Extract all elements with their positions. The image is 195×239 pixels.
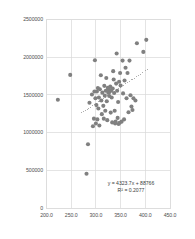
y-axis-tick-label: 1500000 (23, 92, 43, 98)
y-axis-tick-label: 500000 (26, 167, 43, 173)
y-axis-tick-label: 0 (40, 205, 43, 211)
r-squared-value: R² = 0.2077 (101, 187, 161, 194)
x-axis-tick-label: 450.0 (155, 212, 185, 218)
y-axis-tick-label: 2500000 (23, 16, 43, 22)
data-points (56, 38, 149, 176)
regression-annotation: y = 4323.7x + 88766 R² = 0.2077 (101, 180, 161, 195)
plot-canvas (0, 0, 195, 239)
regression-equation: y = 4323.7x + 88766 (101, 180, 161, 187)
y-axis-tick-label: 2000000 (23, 54, 43, 60)
scatter-chart: 05000001000000150000020000002500000 200.… (0, 0, 195, 239)
y-axis-tick-label: 1000000 (23, 129, 43, 135)
r-squared-text: R² = 0.2077 (118, 187, 145, 193)
